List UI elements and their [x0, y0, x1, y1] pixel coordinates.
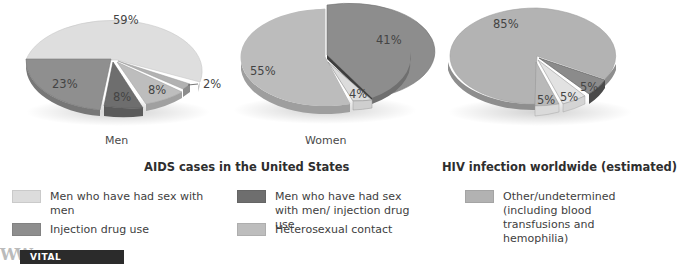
- pie-women: 41% 55% 4%: [233, 3, 435, 124]
- vital-statistics-badge: VITAL STATISTICS: [20, 250, 124, 264]
- label-men-hetero: 8%: [148, 83, 166, 97]
- legend-swatch: [465, 190, 494, 203]
- label-world-msm: 5%: [560, 90, 578, 104]
- legend-swatch: [12, 190, 41, 203]
- label-world-idu: 5%: [580, 80, 598, 94]
- caption-women: Women: [305, 134, 346, 147]
- legend-item-msm: Men who have had sex with men: [12, 190, 222, 218]
- legend-item-idu: Injection drug use: [12, 223, 222, 237]
- label-women-idu: 41%: [376, 33, 402, 47]
- title-world: HIV infection worldwide (estimated): [442, 160, 677, 174]
- title-us: AIDS cases in the United States: [144, 160, 349, 174]
- legend-item-hetero: Heterosexual contact: [237, 223, 417, 237]
- legend-label: Injection drug use: [50, 223, 149, 237]
- pie-world: 85% 5% 5% 5%: [448, 8, 632, 126]
- legend-label: Men who have had sex with men: [50, 190, 222, 218]
- label-men-other: 2%: [203, 77, 221, 91]
- label-men-msm-idu: 8%: [113, 90, 131, 104]
- legend-item-other: Other/undetermined (including blood tran…: [465, 190, 640, 246]
- pie-men: 59% 23% 8% 8% 2%: [26, 13, 221, 126]
- label-women-other: 4%: [349, 87, 367, 101]
- legend-swatch: [12, 223, 41, 236]
- caption-men: Men: [105, 134, 128, 147]
- label-women-hetero: 55%: [250, 64, 276, 78]
- label-men-msm: 59%: [113, 13, 139, 27]
- label-men-idu: 23%: [52, 77, 78, 91]
- legend-label: Other/undetermined (including blood tran…: [503, 190, 640, 246]
- label-world-other: 5%: [537, 93, 555, 107]
- legend-swatch: [237, 190, 266, 203]
- legend-swatch: [237, 223, 266, 236]
- legend-label: Heterosexual contact: [275, 223, 392, 237]
- label-world-hetero: 85%: [493, 17, 519, 31]
